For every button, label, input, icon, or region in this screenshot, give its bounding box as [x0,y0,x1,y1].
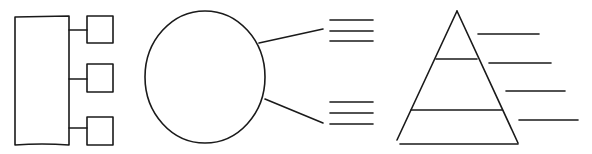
callout-line [265,99,323,123]
main-box [15,16,69,145]
diagram-canvas [0,0,592,154]
child-box [87,117,113,145]
child-box [87,16,113,43]
pyramid-template [397,11,578,144]
child-box [87,64,113,92]
pyramid-right-edge [457,11,518,143]
hierarchy-template [15,16,113,145]
callout-line [259,29,323,43]
diagram-svg [0,0,592,154]
circle-shape [145,11,265,143]
pyramid-left-edge [397,11,457,140]
circle-callout-template [145,11,373,143]
